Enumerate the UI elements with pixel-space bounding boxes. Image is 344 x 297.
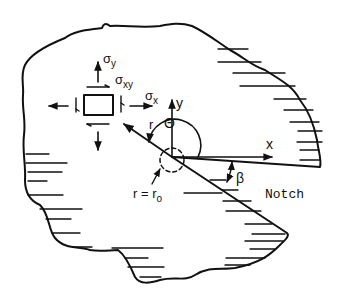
label-sigma-xy: σxy [115,72,133,90]
label-y-axis: y [176,95,183,111]
label-notch: Notch [265,187,304,202]
hatching [26,49,322,277]
stress-element [84,95,113,115]
r0-pointer-arrow [152,169,160,184]
notch-diagram: σy σxy σx r y x Θ r = ro β Notch [0,0,344,297]
label-r-eq-r0: r = ro [133,186,162,204]
theta-arc [149,119,201,157]
label-beta: β [236,170,244,186]
label-sigma-x: σx [145,88,158,106]
beta-arc [227,162,232,182]
label-x-axis: x [266,136,273,152]
label-sigma-y: σy [103,51,116,69]
label-theta: Θ [164,115,175,131]
